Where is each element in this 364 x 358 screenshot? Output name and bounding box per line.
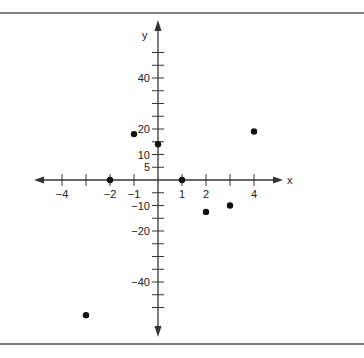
- y-tick-label: −40: [131, 276, 150, 288]
- x-tick-label: −1: [128, 188, 141, 200]
- y-axis-label: y: [142, 29, 148, 41]
- data-point: [107, 177, 113, 183]
- y-tick-label: 10: [138, 149, 150, 161]
- scatter-chart: −4−2−11244020105−10−20−40xy: [0, 0, 364, 358]
- data-points: [83, 128, 257, 318]
- x-tick-label: −2: [104, 188, 117, 200]
- x-axis-left-arrow-icon: [34, 177, 44, 184]
- data-point: [179, 177, 185, 183]
- axes: [34, 20, 283, 337]
- data-point: [251, 128, 257, 134]
- data-point: [155, 141, 161, 147]
- y-tick-label: 40: [138, 72, 150, 84]
- data-point: [131, 131, 137, 137]
- y-tick-label: 5: [144, 161, 150, 173]
- y-tick-label: −10: [131, 200, 150, 212]
- x-tick-label: −4: [56, 188, 69, 200]
- y-tick-label: −20: [131, 225, 150, 237]
- x-axis-label: x: [287, 174, 293, 186]
- x-tick-label: 2: [203, 188, 209, 200]
- data-point: [83, 312, 89, 318]
- data-point: [227, 202, 233, 208]
- data-point: [203, 209, 209, 215]
- x-axis-right-arrow-icon: [273, 177, 283, 184]
- x-tick-label: 1: [179, 188, 185, 200]
- y-axis-down-arrow-icon: [155, 326, 162, 337]
- y-axis-up-arrow-icon: [155, 20, 162, 31]
- y-tick-label: 20: [138, 123, 150, 135]
- x-tick-label: 4: [251, 188, 257, 200]
- tick-labels: −4−2−11244020105−10−20−40xy: [56, 29, 293, 288]
